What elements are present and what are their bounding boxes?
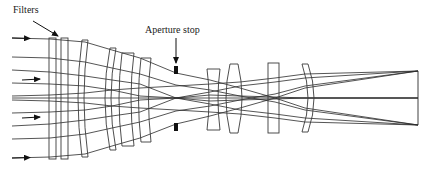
filter-plate-2 bbox=[61, 38, 68, 159]
filter-plate-1 bbox=[49, 38, 56, 159]
lens-2 bbox=[105, 48, 116, 150]
optical-system-diagram bbox=[0, 0, 431, 172]
arrow-icon bbox=[12, 158, 30, 159]
aperture-stop-bottom bbox=[174, 123, 178, 131]
filters-pointer-arrow-icon bbox=[33, 21, 58, 36]
lens-1 bbox=[78, 40, 88, 157]
aperture-stop-label: Aperture stop bbox=[145, 24, 200, 35]
arrow-icon bbox=[22, 79, 40, 80]
lens-5 bbox=[207, 69, 220, 130]
arrow-icon bbox=[12, 38, 30, 39]
lens-7 bbox=[268, 63, 279, 133]
aperture-stop-top bbox=[174, 66, 178, 74]
lens-3 bbox=[119, 53, 134, 146]
lens-4 bbox=[139, 58, 152, 142]
filters-label: Filters bbox=[13, 4, 39, 15]
arrow-icon bbox=[22, 117, 40, 118]
lens-6 bbox=[226, 64, 242, 133]
